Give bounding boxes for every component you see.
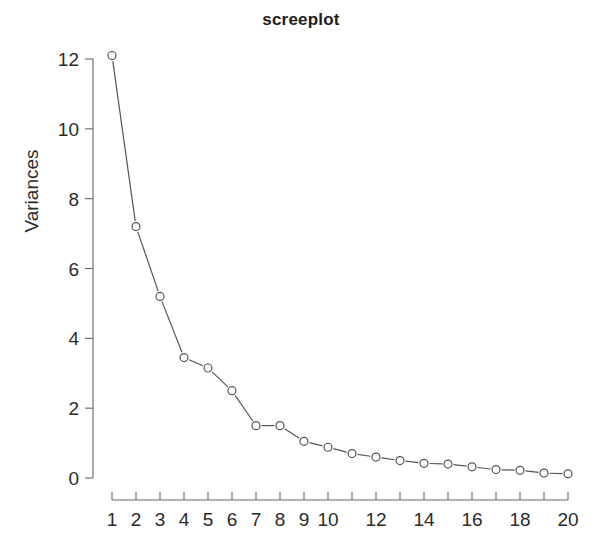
y-tick-label: 6 (68, 259, 79, 280)
data-point-marker (180, 354, 188, 362)
data-series-variances (108, 52, 572, 478)
y-tick-label: 0 (68, 468, 79, 489)
x-tick-label: 9 (299, 509, 310, 530)
screeplot-figure: screeplot Variances 024681012 1234567891… (0, 0, 602, 559)
data-point-marker (324, 443, 332, 451)
data-point-marker (300, 437, 308, 445)
data-point-marker (468, 463, 476, 471)
x-tick-label: 18 (509, 509, 530, 530)
y-tick-label: 2 (68, 398, 79, 419)
data-point-marker (108, 52, 116, 60)
x-tick-label: 2 (131, 509, 142, 530)
data-point-marker (132, 223, 140, 231)
y-axis: 024681012 (58, 49, 93, 489)
x-tick-label: 16 (461, 509, 482, 530)
data-point-marker (516, 466, 524, 474)
x-tick-label: 3 (155, 509, 166, 530)
x-tick-label: 20 (557, 509, 578, 530)
data-point-marker (540, 469, 548, 477)
x-tick-label: 6 (227, 509, 238, 530)
data-point-marker (348, 450, 356, 458)
x-tick-label: 1 (107, 509, 118, 530)
data-point-marker (444, 460, 452, 468)
x-tick-label: 4 (179, 509, 190, 530)
data-point-marker (564, 470, 572, 478)
data-point-marker (276, 422, 284, 430)
data-point-marker (396, 457, 404, 465)
y-tick-label: 4 (68, 328, 79, 349)
y-tick-label: 12 (58, 49, 79, 70)
plot-canvas: 024681012 123456789101214161820 (0, 0, 602, 559)
data-point-marker (420, 459, 428, 467)
data-point-marker (228, 387, 236, 395)
x-tick-label: 10 (317, 509, 338, 530)
y-tick-label: 10 (58, 119, 79, 140)
data-point-marker (252, 422, 260, 430)
data-point-marker (156, 292, 164, 300)
y-tick-label: 8 (68, 189, 79, 210)
x-tick-label: 14 (413, 509, 435, 530)
data-point-marker (204, 364, 212, 372)
x-tick-label: 12 (365, 509, 386, 530)
x-tick-label: 7 (251, 509, 262, 530)
data-point-marker (372, 453, 380, 461)
x-tick-label: 5 (203, 509, 214, 530)
x-tick-label: 8 (275, 509, 286, 530)
data-point-marker (492, 466, 500, 474)
x-axis: 123456789101214161820 (107, 492, 579, 530)
